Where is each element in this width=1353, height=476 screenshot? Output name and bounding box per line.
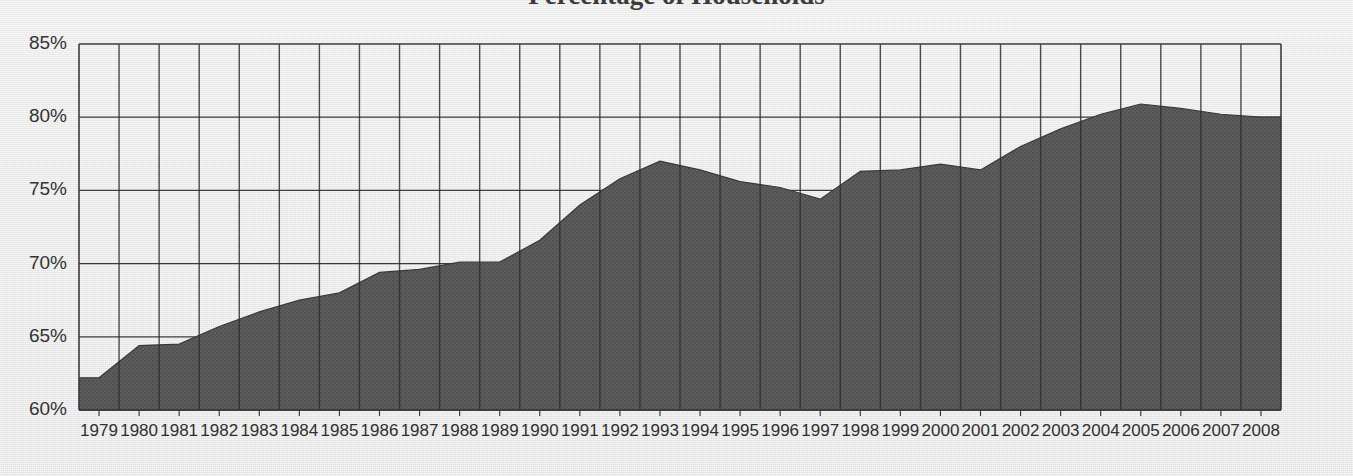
x-tick-label: 1987 bbox=[401, 421, 439, 440]
y-tick-label: 80% bbox=[29, 105, 67, 126]
x-tick-label: 1986 bbox=[361, 421, 399, 440]
x-tick-label: 1982 bbox=[200, 421, 238, 440]
y-tick-label: 85% bbox=[29, 32, 67, 53]
x-tick-label: 2002 bbox=[1002, 421, 1040, 440]
x-tick-label: 2006 bbox=[1162, 421, 1200, 440]
x-tick-label: 1979 bbox=[80, 421, 118, 440]
x-tick-label: 1994 bbox=[681, 421, 719, 440]
x-tick-label: 1999 bbox=[881, 421, 919, 440]
x-tick-label: 2007 bbox=[1202, 421, 1240, 440]
x-tick-label: 1983 bbox=[240, 421, 278, 440]
x-tick-label: 2004 bbox=[1082, 421, 1120, 440]
x-tick-label: 1985 bbox=[321, 421, 359, 440]
x-tick-label: 1996 bbox=[761, 421, 799, 440]
y-tick-label: 65% bbox=[29, 325, 67, 346]
x-tick-label: 1984 bbox=[280, 421, 318, 440]
x-tick-label: 1992 bbox=[601, 421, 639, 440]
x-tick-label: 2008 bbox=[1242, 421, 1280, 440]
y-axis-tick-labels: 85%80%75%70%65%60% bbox=[29, 32, 67, 419]
x-tick-label: 1980 bbox=[120, 421, 158, 440]
x-tick-label: 2000 bbox=[922, 421, 960, 440]
x-tick-label: 2003 bbox=[1042, 421, 1080, 440]
x-tick-label: 1995 bbox=[721, 421, 759, 440]
x-tick-label: 2001 bbox=[962, 421, 1000, 440]
x-tick-label: 1988 bbox=[441, 421, 479, 440]
x-axis-tick-labels: 1979198019811982198319841985198619871988… bbox=[80, 410, 1280, 440]
area-series-group bbox=[79, 44, 1281, 410]
x-tick-label: 2005 bbox=[1122, 421, 1160, 440]
x-tick-label: 1993 bbox=[641, 421, 679, 440]
area-chart: 85%80%75%70%65%60% 197919801981198219831… bbox=[0, 0, 1353, 476]
chart-svg: 85%80%75%70%65%60% 197919801981198219831… bbox=[0, 0, 1353, 476]
y-tick-label: 75% bbox=[29, 178, 67, 199]
x-tick-label: 1997 bbox=[801, 421, 839, 440]
x-tick-label: 1989 bbox=[481, 421, 519, 440]
x-tick-label: 1990 bbox=[521, 421, 559, 440]
x-tick-label: 1981 bbox=[160, 421, 198, 440]
y-tick-label: 70% bbox=[29, 252, 67, 273]
x-tick-label: 1991 bbox=[561, 421, 599, 440]
y-tick-label: 60% bbox=[29, 398, 67, 419]
x-tick-label: 1998 bbox=[841, 421, 879, 440]
